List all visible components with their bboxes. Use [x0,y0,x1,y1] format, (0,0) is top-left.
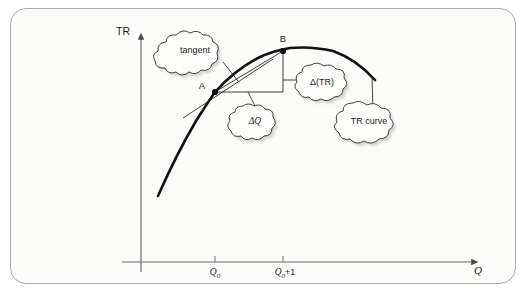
point-a-group: A [199,80,218,95]
callout-tangent-label: tangent [180,45,211,55]
secant-line-ab [215,51,283,92]
figure-root: TR Q Q0 Q0+1 A B [0,0,529,303]
callout-delta-tr[interactable]: Δ(TR) [295,63,349,103]
point-a-marker [212,89,218,95]
point-b-group: B [280,33,286,54]
diagram-canvas: TR Q Q0 Q0+1 A B [0,0,529,303]
callout-tr-curve[interactable]: TR curve [334,101,395,146]
callout-tangent[interactable]: tangent [154,31,221,78]
x-tick-group: Q0 Q0+1 [210,256,296,280]
point-b-label: B [280,33,286,44]
tick-q0-sub: 0 [217,272,221,280]
x-tick-label-q0: Q0 [210,267,221,280]
callout-delta-q[interactable]: ΔQ [228,104,278,143]
y-axis-label: TR [116,25,130,37]
callout-delta-tr-label: Δ(TR) [310,77,334,87]
x-axis-label: Q [474,264,482,276]
point-b-marker [280,48,286,54]
point-a-label: A [199,80,206,91]
callout-tr-curve-label: TR curve [351,116,388,126]
tick-q1-suffix: +1 [285,267,295,277]
callout-delta-q-label: ΔQ [248,116,262,126]
x-tick-label-q0-plus-1: Q0+1 [275,267,296,280]
